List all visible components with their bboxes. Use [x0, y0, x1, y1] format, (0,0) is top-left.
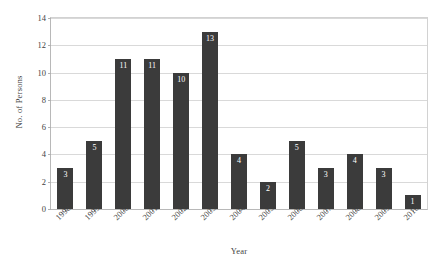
y-axis-title: No. of Persons — [14, 52, 24, 152]
bar-slot: 3 — [311, 18, 340, 209]
bar[interactable]: 4 — [231, 154, 247, 209]
bar-value-label: 3 — [318, 170, 334, 179]
x-axis-tick-label-slot: 2006 — [281, 210, 310, 244]
bar[interactable]: 13 — [202, 32, 218, 209]
bar-slot: 1 — [398, 18, 427, 209]
bar[interactable]: 4 — [347, 154, 363, 209]
bar-value-label: 4 — [347, 156, 363, 165]
x-axis-tick-label-slot: 2007 — [310, 210, 339, 244]
bar-slot: 5 — [80, 18, 109, 209]
bar-slot: 11 — [109, 18, 138, 209]
bar-value-label: 11 — [144, 61, 160, 70]
x-axis-tick-label-slot: 2010 — [397, 210, 426, 244]
x-axis-tick-label-slot: 2005 — [252, 210, 281, 244]
bar-slot: 2 — [253, 18, 282, 209]
bar-slot: 3 — [51, 18, 80, 209]
bar-value-label: 3 — [57, 170, 73, 179]
bars-layer: 35111110134253431 — [51, 18, 427, 209]
bar-slot: 3 — [369, 18, 398, 209]
bar[interactable]: 11 — [144, 59, 160, 209]
bar[interactable]: 5 — [289, 141, 305, 209]
plot-area: 02468101214 35111110134253431 — [50, 17, 428, 210]
x-axis-tick-labels: 1998199920002001200220032004200520062007… — [50, 210, 428, 244]
x-axis-tick-label-slot: 2009 — [368, 210, 397, 244]
bar-slot: 11 — [138, 18, 167, 209]
y-axis-tick-label: 14 — [38, 13, 47, 23]
x-axis-tick-label-slot: 1998 — [50, 210, 79, 244]
x-axis-tick-label-slot: 2003 — [195, 210, 224, 244]
bar-value-label: 5 — [289, 143, 305, 152]
bar-slot: 5 — [282, 18, 311, 209]
x-axis-tick-label-slot: 1999 — [79, 210, 108, 244]
bar[interactable]: 5 — [86, 141, 102, 209]
bar-slot: 10 — [167, 18, 196, 209]
bar[interactable]: 11 — [115, 59, 131, 209]
y-axis-tick-label: 6 — [42, 122, 46, 132]
bar-value-label: 4 — [231, 156, 247, 165]
x-axis-tick-label-slot: 2004 — [224, 210, 253, 244]
x-axis-tick-label-slot: 2000 — [108, 210, 137, 244]
bar-value-label: 2 — [260, 184, 276, 193]
y-axis-tick-label: 0 — [42, 204, 46, 214]
bar-value-label: 3 — [376, 170, 392, 179]
bar[interactable]: 10 — [173, 73, 189, 209]
y-axis-tick-label: 4 — [42, 149, 46, 159]
x-axis-tick-label-slot: 2001 — [137, 210, 166, 244]
bar-value-label: 13 — [202, 34, 218, 43]
y-axis-tick-label: 10 — [38, 68, 47, 78]
y-axis-tick-label: 12 — [38, 40, 47, 50]
x-axis-tick-label-slot: 2002 — [166, 210, 195, 244]
bar-slot: 4 — [340, 18, 369, 209]
bar-chart: No. of Persons 02468101214 3511111013425… — [0, 0, 445, 264]
x-axis-title: Year — [50, 246, 428, 256]
bar-slot: 13 — [196, 18, 225, 209]
bar-slot: 4 — [225, 18, 254, 209]
y-axis-tick-label: 2 — [42, 177, 46, 187]
bar-value-label: 5 — [86, 143, 102, 152]
y-axis-tick-label: 8 — [42, 95, 46, 105]
x-axis-tick-label-slot: 2008 — [339, 210, 368, 244]
bar-value-label: 11 — [115, 61, 131, 70]
bar-value-label: 10 — [173, 75, 189, 84]
